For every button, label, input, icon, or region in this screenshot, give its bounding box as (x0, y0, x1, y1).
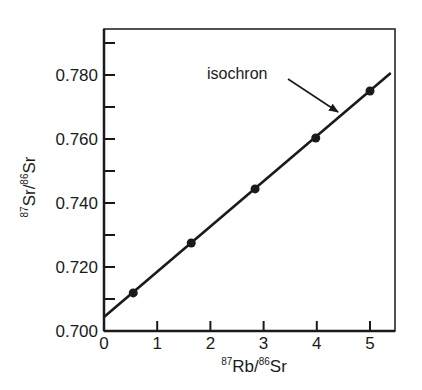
annotation-label: isochron (207, 65, 267, 82)
isochron-chart: 012345 0.7000.7200.7400.7600.780 isochro… (0, 0, 422, 390)
x-tick-label: 0 (99, 334, 108, 353)
data-point (129, 288, 138, 297)
y-tick-label: 0.720 (55, 258, 98, 277)
data-point (366, 87, 375, 96)
isochron-annotation: isochron (207, 65, 338, 112)
x-tick-label: 3 (259, 334, 268, 353)
y-tick-label: 0.700 (55, 322, 98, 341)
x-ticks: 012345 (99, 321, 374, 353)
x-tick-label: 2 (206, 334, 215, 353)
x-tick-label: 1 (152, 334, 161, 353)
x-axis-label: 87Rb/86Sr (221, 356, 287, 376)
y-axis-label: 87Sr/86Sr (19, 156, 39, 217)
x-tick-label: 5 (365, 334, 374, 353)
data-point (187, 239, 196, 248)
data-point (311, 134, 320, 143)
y-tick-label: 0.760 (55, 130, 98, 149)
data-point (251, 184, 260, 193)
isochron-line (104, 73, 391, 317)
annotation-arrow (288, 79, 338, 112)
y-tick-label: 0.780 (55, 66, 98, 85)
x-tick-label: 4 (312, 334, 321, 353)
y-tick-label: 0.740 (55, 194, 98, 213)
isochron-fit-line (104, 73, 391, 317)
y-ticks: 0.7000.7200.7400.7600.780 (55, 43, 115, 341)
